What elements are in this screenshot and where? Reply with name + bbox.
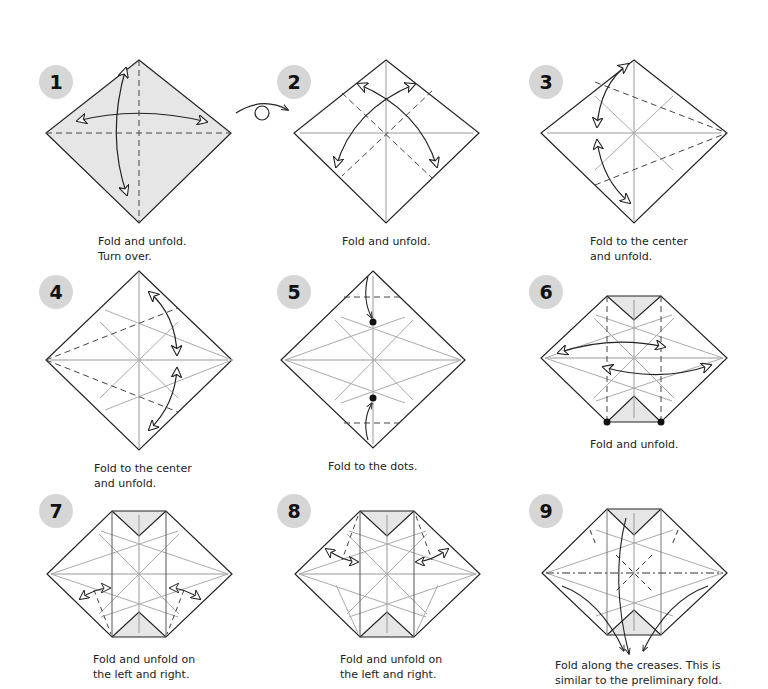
step-number: 3 (539, 71, 552, 93)
step-number: 7 (49, 500, 62, 522)
step-6-caption: Fold and unfold. (590, 437, 678, 452)
diagram-canvas (0, 0, 768, 689)
step-7-caption: Fold and unfold on the left and right. (93, 652, 195, 682)
step-badge-7: 7 (39, 494, 73, 528)
fold-arrow-icon (643, 586, 708, 651)
step-2-caption: Fold and unfold. (342, 234, 430, 249)
reference-dot (370, 319, 377, 326)
step-1-caption: Fold and unfold. Turn over. (98, 234, 186, 264)
step-6-diagram (541, 296, 727, 426)
step-number: 5 (287, 281, 300, 303)
step-badge-8: 8 (277, 494, 311, 528)
step-4-diagram (46, 271, 232, 450)
step-number: 9 (539, 500, 552, 522)
step-1-diagram (46, 60, 288, 223)
step-4-caption: Fold to the center and unfold. (94, 461, 192, 491)
step-9-diagram (542, 509, 727, 654)
step-number: 1 (49, 71, 62, 93)
step-number: 4 (49, 281, 62, 303)
reference-dot (370, 395, 377, 402)
step-number: 8 (287, 500, 300, 522)
turn-over-icon (255, 106, 269, 120)
step-badge-2: 2 (277, 65, 311, 99)
step-5-caption: Fold to the dots. (328, 459, 418, 474)
step-number: 6 (539, 281, 552, 303)
two-way-arrow-icon (170, 588, 200, 599)
step-2-diagram (294, 60, 479, 223)
step-8-caption: Fold and unfold on the left and right. (340, 652, 442, 682)
two-way-arrow-icon (558, 342, 665, 353)
reference-dot (604, 419, 611, 426)
turn-over-arrow-icon (236, 104, 288, 113)
step-badge-4: 4 (39, 275, 73, 309)
step-badge-1: 1 (39, 65, 73, 99)
step-badge-9: 9 (529, 494, 563, 528)
reference-dot (658, 419, 665, 426)
step-8-diagram (295, 511, 480, 637)
step-number: 2 (287, 71, 300, 93)
step-3-caption: Fold to the center and unfold. (590, 234, 688, 264)
step-badge-5: 5 (277, 275, 311, 309)
step-7-diagram (47, 511, 232, 637)
step-9-caption: Fold along the creases. This is similar … (555, 658, 722, 688)
step-badge-3: 3 (529, 65, 563, 99)
step-badge-6: 6 (529, 275, 563, 309)
step-3-diagram (541, 60, 727, 223)
